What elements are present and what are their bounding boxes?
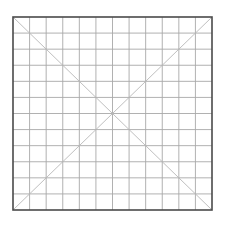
grid-diagram <box>0 0 230 227</box>
